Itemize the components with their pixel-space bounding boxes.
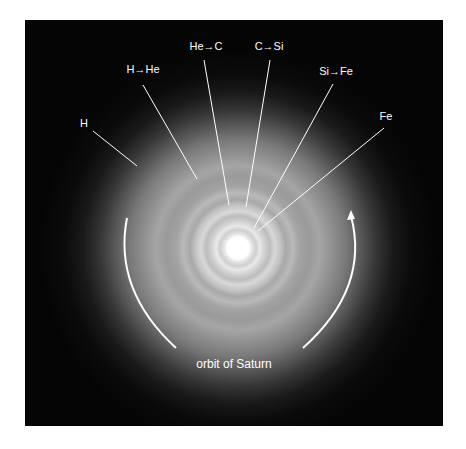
leader-line-fe (258, 128, 384, 231)
shell-label-h-he: H→He (126, 64, 159, 75)
leader-line-h (93, 131, 137, 166)
shell-label-h: H (80, 118, 88, 129)
shell-label-he-c: He→C (189, 41, 222, 52)
orbit-arc-right (303, 216, 355, 348)
leader-line-si-fe (254, 84, 333, 228)
leader-line-c-si (246, 60, 270, 207)
shell-label-fe: Fe (380, 111, 393, 122)
shell-label-si-fe: Si→Fe (319, 66, 353, 77)
star-diagram-panel: H H→He He→C C→Si Si→Fe Fe orbit of Satur… (25, 20, 443, 426)
orbit-caption: orbit of Saturn (196, 358, 271, 370)
arrow-up-icon (347, 210, 355, 220)
leader-line-he-c (204, 60, 229, 205)
orbit-arc-left (124, 218, 176, 348)
shell-label-c-si: C→Si (255, 41, 284, 52)
leader-line-h-he (143, 85, 197, 179)
